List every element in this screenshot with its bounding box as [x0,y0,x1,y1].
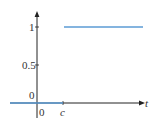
y-tick-label-0: 0 [29,89,35,101]
x-axis-label: t [145,97,149,109]
step-function-chart: 1 0.5 0 0 c t [0,0,158,126]
y-tick-label-0.5: 0.5 [22,59,36,71]
x-tick-label-c: c [60,106,65,118]
x-tick-label-0: 0 [39,106,45,118]
y-tick-label-1: 1 [29,21,35,33]
